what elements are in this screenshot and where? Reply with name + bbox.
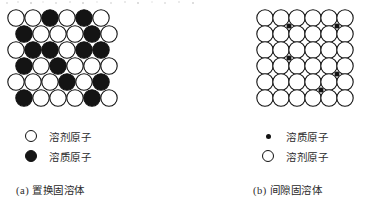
panel-substitutional: 溶剂原子 溶质原子 (a) 置换固溶体 (0, 0, 140, 207)
solute-atom (59, 74, 75, 90)
solvent-atom (305, 42, 321, 58)
solvent-atom (33, 26, 49, 42)
solvent-atom (25, 10, 41, 26)
panel-interstitial: 溶质原子 溶剂原子 (b) 间隙固溶体 (231, 0, 371, 207)
legend-label-solvent: 溶剂原子 (286, 149, 328, 164)
solvent-atom (257, 74, 273, 90)
lattice-interstitial-svg (255, 8, 367, 120)
solvent-atom (337, 90, 353, 106)
solvent-atom (273, 42, 289, 58)
solvent-atom (257, 42, 273, 58)
solvent-atom (257, 26, 273, 42)
solute-atom (50, 58, 66, 74)
legend-label-solvent: 溶剂原子 (49, 129, 91, 144)
solvent-atom (67, 58, 83, 74)
solvent-atom (59, 10, 75, 26)
solvent-atom (257, 58, 273, 74)
solvent-atom (8, 42, 24, 58)
solvent-atom (289, 74, 305, 90)
solvent-atom (337, 74, 353, 90)
solute-atom-interstitial (287, 56, 292, 61)
solvent-atom (50, 26, 66, 42)
solvent-atom (93, 10, 109, 26)
solvent-atom (321, 90, 337, 106)
solvent-atom (8, 74, 24, 90)
legend-label-solute: 溶质原子 (49, 149, 91, 164)
solute-atom (76, 10, 92, 26)
solvent-atom (305, 26, 321, 42)
solvent-atom (337, 10, 353, 26)
solvent-atom (67, 26, 83, 42)
dot-small-icon (257, 134, 279, 139)
solute-atom (16, 90, 32, 106)
solute-atom (42, 42, 58, 58)
circle-filled-icon (20, 150, 42, 162)
solute-atom-interstitial (335, 72, 340, 77)
solvent-atom (101, 26, 117, 42)
lattice-interstitial (255, 8, 367, 124)
solvent-atom (84, 58, 100, 74)
solvent-atom (273, 58, 289, 74)
solvent-atom (321, 26, 337, 42)
solvent-atom (289, 10, 305, 26)
solvent-atom (8, 10, 24, 26)
circle-open-icon (257, 150, 279, 162)
solvent-atom (289, 42, 305, 58)
solute-atom (84, 90, 100, 106)
solute-atom (76, 42, 92, 58)
solute-atom (16, 58, 32, 74)
lattice-substitutional (6, 8, 134, 124)
solute-atom (16, 26, 32, 42)
legend-item-solute: 溶质原子 (20, 146, 91, 166)
legend-substitutional: 溶剂原子 溶质原子 (20, 126, 91, 166)
solvent-atom (273, 90, 289, 106)
solvent-atom (59, 42, 75, 58)
solvent-atom (50, 90, 66, 106)
solute-atom-interstitial (335, 24, 340, 29)
solute-atom (25, 42, 41, 58)
solvent-atom (33, 58, 49, 74)
solute-atom (84, 26, 100, 42)
solvent-atom (305, 90, 321, 106)
legend-label-solute: 溶质原子 (286, 129, 328, 144)
legend-interstitial: 溶质原子 溶剂原子 (257, 126, 328, 166)
solvent-atom (101, 58, 117, 74)
solvent-atom (67, 90, 83, 106)
solvent-atom (305, 74, 321, 90)
solvent-atom (321, 74, 337, 90)
legend-item-solvent: 溶剂原子 (257, 146, 328, 166)
solvent-atom (273, 26, 289, 42)
legend-item-solvent: 溶剂原子 (20, 126, 91, 146)
solvent-atom (321, 10, 337, 26)
solvent-atom (337, 26, 353, 42)
solute-atom (93, 74, 109, 90)
solvent-atom (321, 58, 337, 74)
solvent-atom (289, 90, 305, 106)
solvent-atom (273, 10, 289, 26)
caption-panel-b: (b) 间隙固溶体 (253, 182, 322, 197)
solute-atom (93, 42, 109, 58)
solvent-atom (305, 10, 321, 26)
solute-atom-interstitial (287, 24, 292, 29)
solvent-atom (321, 42, 337, 58)
solute-atom-interstitial (319, 88, 324, 93)
solvent-atom (305, 58, 321, 74)
lattice-substitutional-svg (6, 8, 134, 120)
solid-solution-figure: 溶剂原子 溶质原子 (a) 置换固溶体 溶质原子 (0, 0, 371, 207)
solvent-atom (337, 42, 353, 58)
solvent-atom (289, 26, 305, 42)
solvent-atom (33, 90, 49, 106)
caption-panel-a: (a) 置换固溶体 (16, 182, 85, 197)
solvent-atom (257, 10, 273, 26)
solvent-atom (257, 90, 273, 106)
solvent-atom (25, 74, 41, 90)
legend-item-solute: 溶质原子 (257, 126, 328, 146)
solvent-atom (337, 58, 353, 74)
solvent-atom (273, 74, 289, 90)
solvent-atom (76, 74, 92, 90)
solute-atom (42, 10, 58, 26)
solvent-atom (101, 90, 117, 106)
solvent-atom (289, 58, 305, 74)
solvent-atom (42, 74, 58, 90)
circle-open-icon (20, 130, 42, 142)
